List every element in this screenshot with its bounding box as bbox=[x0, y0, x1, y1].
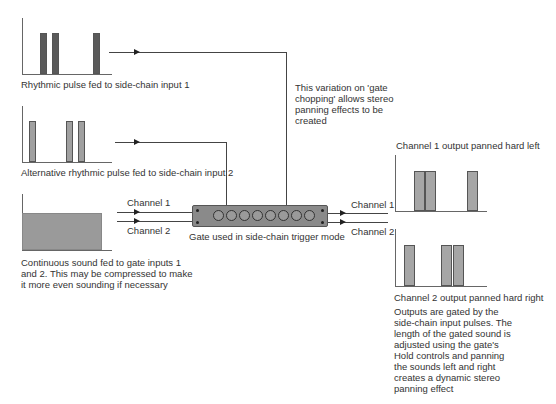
input2-pulse bbox=[66, 121, 73, 162]
output-explanation: Outputs are gated by the side-chain inpu… bbox=[394, 306, 519, 394]
output2-pulse bbox=[404, 245, 415, 286]
input2-pulse bbox=[29, 121, 36, 162]
input-channel2-label: Channel 2 bbox=[127, 225, 170, 236]
gate-knob-icon bbox=[291, 210, 302, 221]
gate-caption: Gate used in side-chain trigger mode bbox=[189, 231, 345, 242]
continuous-sound-block bbox=[22, 213, 102, 250]
output1-y-axis bbox=[395, 155, 396, 212]
input2-x-axis bbox=[22, 162, 112, 163]
input-channel1-label: Channel 1 bbox=[127, 197, 170, 208]
input1-pulse bbox=[52, 33, 59, 74]
output1-caption: Channel 1 output panned hard left bbox=[396, 140, 540, 151]
input1-pulse bbox=[40, 33, 47, 74]
output1-x-axis bbox=[395, 211, 487, 212]
input2-drop-line bbox=[226, 142, 227, 205]
output1-pulse bbox=[425, 171, 436, 211]
gate-screw bbox=[321, 221, 324, 224]
output1-pulse bbox=[414, 171, 425, 211]
input2-y-axis bbox=[22, 106, 23, 163]
output1-pulse bbox=[467, 171, 478, 211]
output-channel2-label: Channel 2 bbox=[351, 226, 394, 237]
continuous-x-axis bbox=[22, 250, 112, 251]
input1-drop-line bbox=[286, 52, 287, 205]
input-channel2-line bbox=[117, 221, 192, 222]
gate-knob-icon bbox=[278, 210, 289, 221]
input1-y-axis bbox=[22, 18, 23, 75]
input1-arrow-icon bbox=[134, 49, 140, 55]
gate-screw bbox=[196, 209, 199, 212]
gate-knob-icon bbox=[213, 210, 224, 221]
input2-signal-line bbox=[115, 142, 226, 143]
output2-pulse bbox=[453, 245, 464, 286]
output-channel1-arrow-icon bbox=[340, 210, 346, 216]
input1-pulse bbox=[93, 33, 100, 74]
continuous-caption: Continuous sound fed to gate inputs 1 an… bbox=[21, 257, 196, 290]
output2-y-axis bbox=[395, 229, 396, 286]
input-channel1-arrow-icon bbox=[134, 209, 140, 215]
gate-knob-icon bbox=[304, 210, 315, 221]
output-channel1-label: Channel 1 bbox=[351, 199, 394, 210]
output2-x-axis bbox=[395, 286, 487, 287]
output-channel1-line bbox=[328, 213, 388, 214]
output2-pulse bbox=[441, 245, 452, 286]
input2-arrow-icon bbox=[134, 139, 140, 145]
input-channel2-arrow-icon bbox=[134, 218, 140, 224]
gate-screw bbox=[196, 221, 199, 224]
output2-caption: Channel 2 output panned hard right bbox=[394, 292, 543, 303]
gate-chopping-note: This variation on 'gate chopping' allows… bbox=[295, 82, 395, 126]
output-channel2-arrow-icon bbox=[340, 219, 346, 225]
gate-screw bbox=[321, 209, 324, 212]
input1-x-axis bbox=[22, 74, 112, 75]
gate-device bbox=[192, 205, 328, 227]
output-channel2-line bbox=[328, 222, 388, 223]
input1-caption: Rhythmic pulse fed to side-chain input 1 bbox=[21, 79, 189, 90]
gate-knob-icon bbox=[239, 210, 250, 221]
gate-knob-icon bbox=[265, 210, 276, 221]
input2-caption: Alternative rhythmic pulse fed to side-c… bbox=[21, 167, 233, 178]
gate-knob-icon bbox=[252, 210, 263, 221]
gate-knob-icon bbox=[226, 210, 237, 221]
input-channel1-line bbox=[117, 212, 192, 213]
input2-pulse bbox=[78, 121, 85, 162]
